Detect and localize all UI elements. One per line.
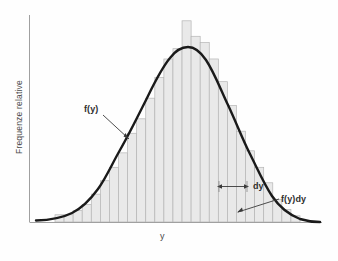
histogram-bar (255, 167, 264, 222)
histogram-bar (191, 36, 200, 222)
annotation-fy: f(y) (84, 104, 98, 114)
histogram-bar (109, 167, 118, 222)
histogram-bar (91, 194, 100, 222)
histogram-bar (173, 49, 182, 222)
histogram-bar (200, 42, 209, 222)
fy-leader-line (103, 115, 129, 139)
histogram-bar (164, 59, 173, 222)
histogram-bar (82, 204, 91, 222)
histogram-bar (119, 153, 128, 222)
annotation-fydy: f(y)dy (281, 194, 306, 204)
histogram-bar (146, 98, 155, 222)
y-axis-title: Frequenze relative (14, 59, 24, 175)
histogram-bar (100, 181, 109, 222)
annotation-dy: dy (253, 181, 264, 191)
histogram-bar (236, 131, 245, 222)
histogram-bar (155, 78, 164, 222)
x-axis-title: y (160, 231, 165, 241)
histogram-bar (128, 133, 137, 222)
histogram-bar (182, 21, 191, 222)
histogram-bar (137, 119, 146, 222)
figure-container: Frequenze relative y f(y) dy f(y)dy (0, 0, 338, 261)
histogram-density-plot (0, 0, 338, 261)
